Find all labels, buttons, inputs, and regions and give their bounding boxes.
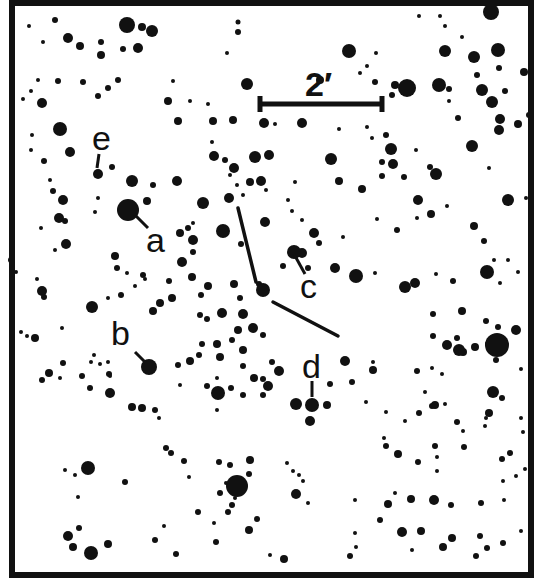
star (95, 93, 101, 99)
star (58, 195, 68, 205)
star (55, 78, 61, 84)
star (106, 360, 110, 364)
star (430, 333, 436, 339)
star (204, 383, 210, 389)
star (92, 353, 96, 357)
star (29, 148, 33, 152)
star (453, 344, 465, 356)
star (443, 402, 447, 406)
star (495, 324, 501, 330)
star (353, 498, 357, 502)
star (37, 98, 47, 108)
star (249, 151, 261, 163)
star (238, 241, 244, 247)
star (30, 133, 34, 137)
star (410, 548, 414, 552)
star (246, 471, 252, 477)
star (138, 23, 146, 31)
star (492, 258, 496, 262)
star (204, 282, 212, 290)
star (27, 24, 31, 28)
star (274, 366, 284, 376)
star (434, 272, 438, 276)
star (442, 340, 452, 350)
star (377, 517, 383, 523)
star (432, 443, 438, 449)
star (39, 377, 45, 383)
star (198, 292, 204, 298)
star (427, 210, 435, 218)
star (63, 468, 67, 472)
star (273, 122, 277, 126)
star (41, 158, 47, 164)
star (50, 188, 56, 194)
star (399, 281, 411, 293)
star (280, 555, 288, 563)
star (354, 545, 358, 549)
star (349, 379, 355, 385)
star (269, 359, 275, 365)
star (480, 265, 494, 279)
star (438, 14, 442, 18)
star (486, 96, 498, 108)
star (432, 78, 446, 92)
star (394, 450, 402, 458)
star (423, 390, 427, 394)
star (108, 374, 112, 378)
star (65, 147, 75, 157)
star (21, 97, 25, 101)
star (384, 410, 388, 414)
star (186, 357, 194, 365)
star (216, 353, 224, 361)
star (435, 455, 439, 459)
star (190, 249, 196, 255)
star (235, 183, 239, 187)
star (89, 360, 93, 364)
star (499, 456, 505, 462)
star (106, 296, 110, 300)
star (474, 72, 480, 78)
star (448, 502, 454, 508)
star (104, 540, 112, 548)
star (493, 357, 499, 363)
star (477, 533, 483, 539)
star (229, 163, 239, 173)
star (430, 311, 436, 317)
star (230, 280, 238, 288)
star (29, 89, 33, 93)
star (416, 410, 422, 416)
star (87, 385, 93, 391)
star (35, 277, 39, 281)
star (365, 64, 369, 68)
star (514, 120, 522, 128)
star (358, 71, 362, 75)
star (264, 150, 274, 160)
star (470, 222, 478, 230)
star (502, 498, 506, 502)
star (209, 151, 219, 161)
star (178, 383, 182, 387)
star (245, 526, 253, 534)
star (364, 400, 368, 404)
star (128, 403, 136, 411)
star (52, 17, 58, 23)
star (519, 367, 523, 371)
star (430, 366, 434, 370)
star (383, 443, 389, 449)
star (250, 374, 258, 382)
star (260, 217, 270, 227)
star (241, 78, 253, 90)
star (126, 175, 138, 187)
star (495, 114, 505, 124)
star (133, 43, 143, 53)
star (143, 197, 151, 205)
star (188, 99, 192, 103)
star (80, 79, 86, 85)
star (300, 218, 304, 222)
star (259, 118, 269, 128)
star (228, 173, 232, 177)
label-a-text: a (146, 221, 165, 259)
star (260, 392, 266, 398)
star (176, 229, 184, 237)
star (199, 341, 205, 347)
